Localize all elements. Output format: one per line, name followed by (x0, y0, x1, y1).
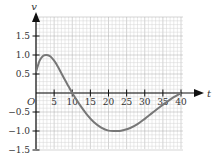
x-axis-label: t (207, 88, 212, 99)
y-tick-label: 1.0 (16, 50, 31, 60)
x-tick-label: 15 (85, 97, 97, 107)
y-axis-label: v (31, 1, 37, 12)
y-tick-label: 0.5 (16, 69, 31, 79)
x-tick-label: 5 (51, 97, 57, 107)
x-tick-label: 40 (175, 97, 187, 107)
x-tick-label: 20 (103, 97, 115, 107)
velocity-time-graph: 5101520253035401.51.00.5−0.5−1.0−1.5 v t… (0, 0, 218, 166)
x-tick-label: 30 (139, 97, 151, 107)
origin-label: O (27, 96, 35, 107)
x-axis-arrow-icon (194, 89, 204, 97)
x-tick-label: 25 (121, 97, 133, 107)
y-tick-label: −1.5 (8, 145, 30, 155)
y-tick-label: −0.5 (8, 107, 30, 117)
y-tick-label: 1.5 (16, 31, 31, 41)
y-tick-label: −1.0 (8, 126, 30, 136)
